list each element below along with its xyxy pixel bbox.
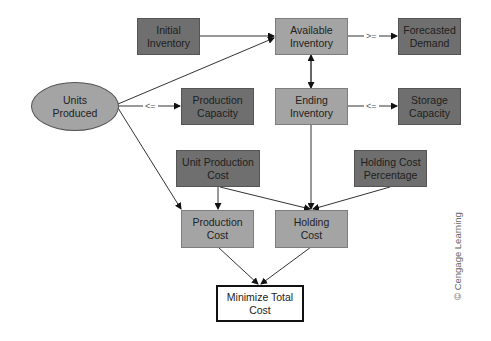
node-label: Production [192, 94, 242, 106]
node-minimize-total-cost: Minimize TotalCost [216, 285, 304, 322]
node-label: Produced [53, 107, 98, 119]
node-units-produced: UnitsProduced [31, 82, 119, 131]
node-label: Units [63, 94, 87, 106]
node-holding-cost: HoldingCost [275, 210, 348, 248]
node-label: Cost [207, 169, 229, 181]
node-label: Cost [301, 229, 323, 241]
influence-diagram: >= <= <= InitialInventory AvailableInven… [0, 0, 491, 341]
node-label: Holding [294, 216, 330, 228]
node-production-capacity: ProductionCapacity [181, 88, 254, 125]
node-label: Production [192, 216, 242, 228]
node-label: Forecasted [403, 24, 456, 36]
node-unit-production-cost: Unit ProductionCost [176, 150, 260, 187]
node-holding-cost-percentage: Holding CostPercentage [354, 150, 427, 187]
node-label: Minimize Total [227, 291, 293, 303]
node-label: Holding Cost [360, 156, 420, 168]
node-storage-capacity: StorageCapacity [398, 88, 461, 125]
node-forecasted-demand: ForecastedDemand [398, 18, 461, 55]
node-label: Capacity [409, 107, 450, 119]
constraint-label-lte-storage: <= [364, 101, 379, 111]
node-label: Capacity [197, 107, 238, 119]
node-label: Inventory [290, 107, 333, 119]
node-label: Cost [207, 229, 229, 241]
node-available-inventory: AvailableInventory [275, 18, 348, 55]
node-initial-inventory: InitialInventory [137, 18, 200, 55]
constraint-label-lte-production: <= [143, 101, 158, 111]
node-label: Available [290, 24, 332, 36]
node-label: Cost [249, 304, 271, 316]
node-label: Inventory [290, 37, 333, 49]
node-label: Ending [295, 94, 328, 106]
node-label: Initial [156, 24, 181, 36]
node-label: Inventory [147, 37, 190, 49]
node-production-cost: ProductionCost [181, 210, 254, 248]
node-label: Unit Production [182, 156, 254, 168]
node-label: Storage [411, 94, 448, 106]
node-ending-inventory: EndingInventory [275, 88, 348, 125]
node-label: Demand [410, 37, 450, 49]
copyright-credit: © Cengage Learning [452, 212, 463, 300]
node-label: Percentage [364, 169, 418, 181]
constraint-label-gte: >= [364, 31, 379, 41]
